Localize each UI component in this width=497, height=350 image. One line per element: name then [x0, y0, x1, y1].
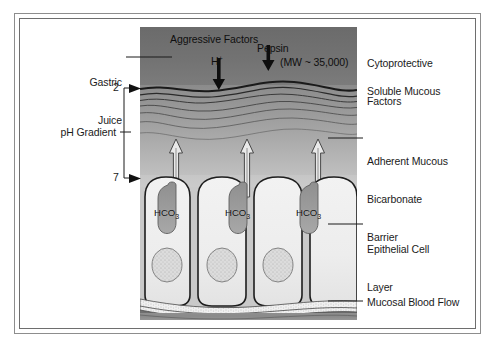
aggressive-factors-heading: Aggressive Factors: [170, 33, 258, 46]
epithelial-line2: Layer: [367, 281, 429, 294]
gastric-juice-line2: Juice: [66, 114, 122, 127]
hco3-text-3: HCO: [296, 207, 317, 218]
epithelial-line1: Epithelial Cell: [367, 243, 429, 256]
hco3-label-1: HCO3: [154, 208, 179, 222]
nucleus-3: [263, 248, 293, 282]
epithelial-cell-3: [254, 177, 302, 306]
nucleus-2: [207, 248, 237, 282]
pepsin-mw-label: (MW ~ 35,000): [280, 56, 348, 69]
ph-value-top: 2: [113, 82, 119, 93]
hco3-text-2: HCO: [225, 207, 246, 218]
cytoprotective-factors-label: Cytoprotective Factors: [367, 32, 433, 133]
mucosal-blood-flow-label: Mucosal Blood Flow: [367, 296, 459, 309]
cell-nuclei: [152, 248, 293, 282]
figure-root: Aggressive Factors H+ Pepsin (MW ~ 35,00…: [0, 0, 497, 350]
hco3-sub-3: 3: [317, 213, 321, 220]
adherent-line2: Bicarbonate: [367, 193, 448, 206]
gastric-mucosa-illustration-panel: Aggressive Factors H+ Pepsin (MW ~ 35,00…: [140, 27, 357, 320]
cytoprotective-line1: Cytoprotective: [367, 57, 433, 70]
hco3-sub-2: 3: [246, 213, 250, 220]
h-ion-charge: +: [218, 54, 222, 63]
hco3-label-2: HCO3: [225, 208, 250, 222]
pepsin-label: Pepsin: [257, 42, 289, 55]
ph-value-bottom: 7: [113, 172, 119, 183]
hco3-text-1: HCO: [154, 207, 175, 218]
nucleus-1: [152, 248, 182, 282]
ph-gradient-label: pH Gradient: [46, 126, 116, 139]
hco3-label-3: HCO3: [296, 208, 321, 222]
soluble-mucous-label: Soluble Mucous: [367, 85, 440, 98]
hco3-sub-1: 3: [175, 213, 179, 220]
h-ion-label: H+: [211, 55, 223, 68]
adherent-line1: Adherent Mucous: [367, 155, 448, 168]
